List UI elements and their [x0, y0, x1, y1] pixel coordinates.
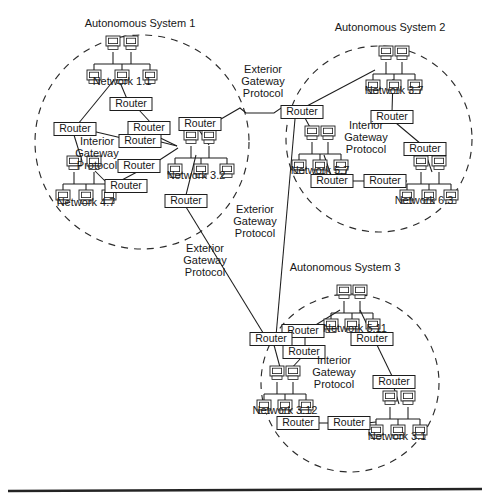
- router-label: Router: [59, 122, 91, 134]
- bus-drop: [94, 52, 150, 70]
- link-as2r2-to-as2r3: [396, 123, 421, 144]
- igp-line-2: Gateway: [312, 366, 356, 378]
- router-as3-r2[interactable]: Router: [250, 332, 292, 345]
- igp-line-3: Protocol: [314, 378, 354, 390]
- igp-label-as1: Interior Gateway Protocol: [75, 135, 119, 171]
- computer-icon: [414, 156, 428, 169]
- link-as3r4-to-as3r5: [377, 345, 392, 376]
- computer-icon: [305, 126, 319, 139]
- network-label-net-5-7: Network 5.7: [291, 164, 350, 176]
- router-label: Router: [288, 345, 320, 357]
- router-as1-r6[interactable]: Router: [118, 159, 160, 172]
- egp-label-1: Exterior Gateway Protocol: [241, 63, 285, 99]
- router-as1-r3[interactable]: Router: [128, 121, 170, 134]
- router-as1-r4[interactable]: Router: [119, 134, 161, 147]
- network-diagram-root: Router Router Router Router Router Route…: [0, 0, 490, 502]
- router-as3-r7[interactable]: Router: [328, 416, 370, 429]
- egp-label-3: Exterior Gateway Protocol: [183, 242, 227, 278]
- router-label: Router: [110, 179, 142, 191]
- computer-icon: [106, 36, 120, 49]
- computer-icon: [401, 391, 415, 404]
- bus-drop: [407, 172, 451, 190]
- computer-icon: [124, 36, 138, 49]
- bus-drop: [299, 142, 341, 160]
- router-label: Router: [286, 105, 318, 117]
- network-label-net-1-1: Network 1.1: [93, 75, 152, 87]
- igp-line-1: Interior: [80, 135, 115, 147]
- router-label: Router: [378, 375, 410, 387]
- network-label-net-3-2: Network 3.2: [167, 169, 226, 181]
- igp-label-as3: Interior Gateway Protocol: [312, 354, 356, 390]
- router-label: Router: [170, 194, 202, 206]
- bus-drop: [264, 382, 306, 400]
- router-as2-r1[interactable]: Router: [281, 105, 323, 118]
- igp-line-3: Protocol: [77, 159, 117, 171]
- router-as3-r5[interactable]: Router: [373, 375, 415, 388]
- network-label-net-3-7: Network 3.7: [365, 84, 424, 96]
- computer-icon: [395, 46, 409, 59]
- router-as1-r1[interactable]: Router: [110, 97, 152, 110]
- as2-title: Autonomous System 2: [335, 21, 446, 33]
- egp-line-2: Gateway: [183, 254, 227, 266]
- bus-drop: [175, 146, 227, 164]
- egp-line-1: Exterior: [186, 242, 224, 254]
- router-as2-r5[interactable]: Router: [364, 174, 406, 187]
- computer-icon: [337, 285, 351, 298]
- egp-line-1: Exterior: [236, 203, 274, 215]
- igp-line-3: Protocol: [346, 143, 386, 155]
- egp-line-2: Gateway: [241, 75, 285, 87]
- router-label: Router: [316, 174, 348, 186]
- egp-line-3: Protocol: [235, 227, 275, 239]
- egp-line-3: Protocol: [185, 266, 225, 278]
- egp-label-2: Exterior Gateway Protocol: [233, 203, 277, 239]
- as1-title: Autonomous System 1: [85, 17, 196, 29]
- router-label: Router: [409, 142, 441, 154]
- router-as3-r4[interactable]: Router: [351, 332, 393, 345]
- bus-drop: [373, 62, 415, 80]
- router-as2-r3[interactable]: Router: [404, 142, 446, 155]
- egp-line-3: Protocol: [243, 87, 283, 99]
- router-as3-r6[interactable]: Router: [277, 416, 319, 429]
- computer-icon: [383, 391, 397, 404]
- router-label: Router: [282, 416, 314, 428]
- egp-link-as2-as3: [276, 119, 295, 336]
- router-as1-r8[interactable]: Router: [165, 194, 207, 207]
- network-label-net-5-11: Network 5.11: [323, 322, 387, 334]
- router-label: Router: [115, 97, 147, 109]
- igp-line-2: Gateway: [344, 131, 388, 143]
- computer-icon: [432, 156, 446, 169]
- igp-line-1: Interior: [317, 354, 352, 366]
- igp-line-1: Interior: [349, 119, 384, 131]
- computer-icon: [353, 285, 367, 298]
- footer-rule: [8, 489, 482, 491]
- router-as1-r2[interactable]: Router: [54, 122, 96, 135]
- as3-title: Autonomous System 3: [290, 261, 401, 273]
- router-as1-r7[interactable]: Router: [105, 179, 147, 192]
- router-as1-r5[interactable]: Router: [179, 117, 221, 130]
- computer-icon: [379, 46, 393, 59]
- egp-link-as1-as2: [221, 108, 288, 119]
- network-diagram-svg: Router Router Router Router Router Route…: [0, 0, 490, 502]
- network-label-net-3-12: Network 3.12: [253, 404, 318, 416]
- router-label: Router: [123, 159, 155, 171]
- igp-line-2: Gateway: [75, 147, 119, 159]
- bus-drop: [331, 301, 373, 319]
- router-as2-r4[interactable]: Router: [311, 174, 353, 187]
- router-label: Router: [255, 332, 287, 344]
- router-label: Router: [333, 416, 365, 428]
- router-label: Router: [369, 174, 401, 186]
- router-label: Router: [133, 121, 165, 133]
- router-label: Router: [124, 134, 156, 146]
- computer-icon: [202, 130, 216, 143]
- computer-icon: [286, 366, 300, 379]
- egp-line-1: Exterior: [244, 63, 282, 75]
- computer-icon: [270, 366, 284, 379]
- network-label-net-4-7: Network 4.7: [57, 196, 116, 208]
- bus-drop: [376, 407, 420, 425]
- router-label: Router: [184, 117, 216, 129]
- router-label: Router: [356, 332, 388, 344]
- egp-line-2: Gateway: [233, 215, 277, 227]
- network-label-net-6-3: Network 6.3: [395, 194, 454, 206]
- computer-icon: [184, 130, 198, 143]
- computer-icon: [321, 126, 335, 139]
